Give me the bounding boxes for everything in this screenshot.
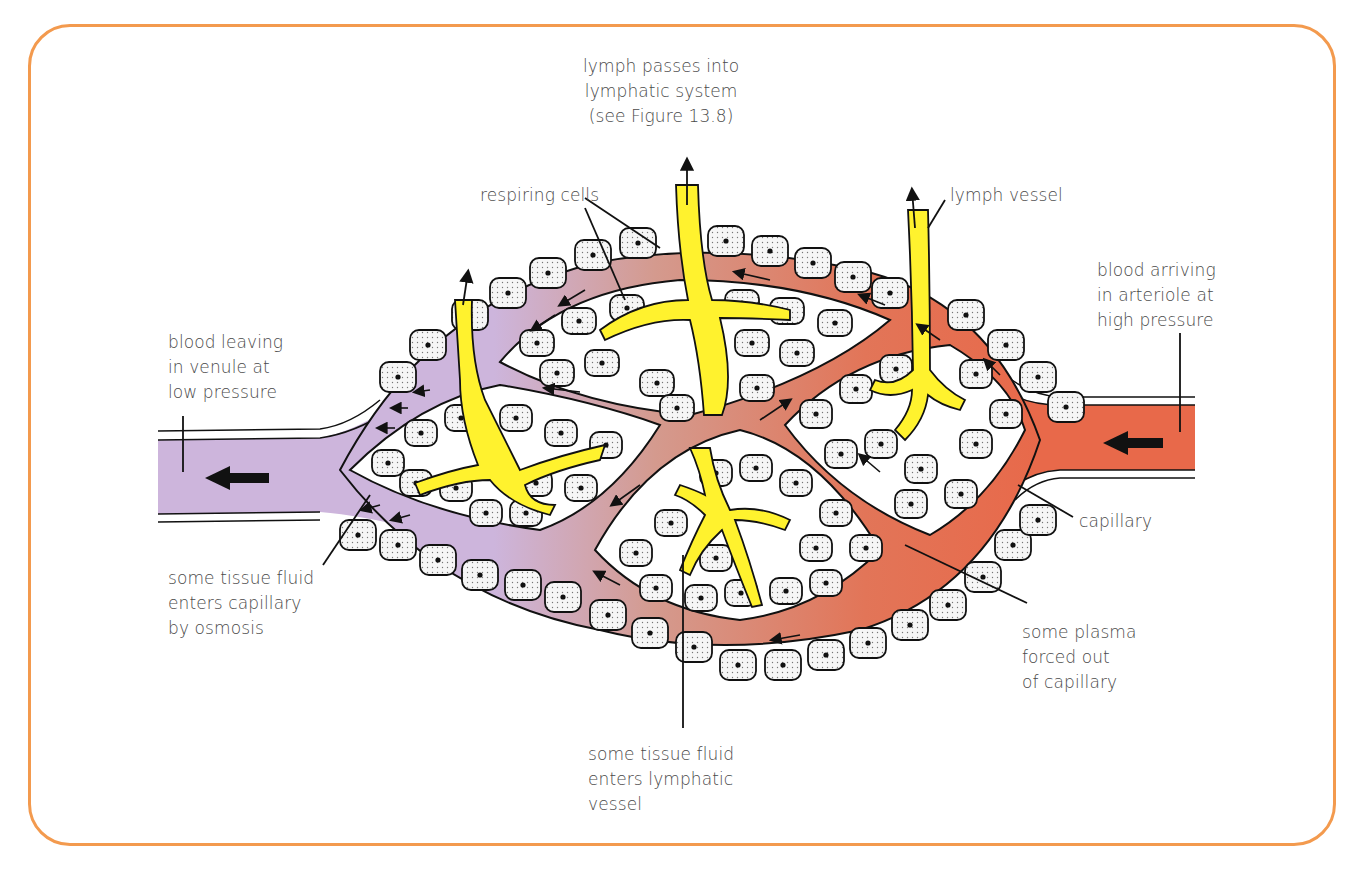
nucleus xyxy=(958,491,963,496)
nucleus xyxy=(578,485,583,490)
nucleus xyxy=(599,360,604,365)
nucleus xyxy=(893,366,898,371)
label-tissue-fluid-osmosis: some tissue fluid enters capillary by os… xyxy=(168,566,314,641)
nucleus xyxy=(1063,404,1068,409)
nucleus xyxy=(477,572,482,577)
nucleus xyxy=(945,602,950,607)
nucleus xyxy=(647,630,652,635)
nucleus xyxy=(853,386,858,391)
nucleus xyxy=(838,451,843,456)
lymph-vessel-leader xyxy=(928,200,945,228)
nucleus xyxy=(723,238,728,243)
nucleus xyxy=(633,550,638,555)
nucleus xyxy=(850,274,855,279)
nucleus xyxy=(554,370,559,375)
nucleus xyxy=(590,252,595,257)
label-capillary: capillary xyxy=(1079,509,1152,534)
nucleus xyxy=(1003,411,1008,416)
nucleus xyxy=(918,466,923,471)
label-blood-leaving: blood leaving in venule at low pressure xyxy=(168,330,283,405)
nucleus xyxy=(418,430,423,435)
nucleus xyxy=(1035,517,1040,522)
nucleus xyxy=(1035,374,1040,379)
nucleus xyxy=(767,248,772,253)
nucleus xyxy=(653,585,658,590)
nucleus xyxy=(780,662,785,667)
nucleus xyxy=(624,305,629,310)
label-lymph-passes: lymph passes into lymphatic system (see … xyxy=(583,54,739,129)
nucleus xyxy=(691,644,696,649)
nucleus xyxy=(754,385,759,390)
nucleus xyxy=(395,542,400,547)
nucleus xyxy=(963,312,968,317)
nucleus xyxy=(605,612,610,617)
nucleus xyxy=(908,501,913,506)
nucleus xyxy=(483,510,488,515)
label-lymph-vessel: lymph vessel xyxy=(950,183,1063,208)
nucleus xyxy=(865,640,870,645)
nucleus xyxy=(505,290,510,295)
nucleus xyxy=(793,480,798,485)
nucleus xyxy=(1003,342,1008,347)
nucleus xyxy=(425,342,430,347)
nucleus xyxy=(823,652,828,657)
nucleus xyxy=(753,465,758,470)
nucleus xyxy=(735,662,740,667)
nucleus xyxy=(635,240,640,245)
nucleus xyxy=(674,405,679,410)
nucleus xyxy=(520,582,525,587)
label-plasma-forced: some plasma forced out of capillary xyxy=(1022,620,1137,695)
nucleus xyxy=(980,574,985,579)
nucleus xyxy=(395,374,400,379)
nucleus xyxy=(698,595,703,600)
nucleus xyxy=(668,520,673,525)
nucleus xyxy=(907,622,912,627)
nucleus xyxy=(513,415,518,420)
nucleus xyxy=(749,340,754,345)
label-respiring-cells: respiring cells xyxy=(480,183,599,208)
nucleus xyxy=(1010,542,1015,547)
nucleus xyxy=(863,545,868,550)
nucleus xyxy=(783,588,788,593)
figure-stage: lymph passes into lymphatic system (see … xyxy=(0,0,1366,871)
nucleus xyxy=(973,371,978,376)
nucleus xyxy=(973,441,978,446)
label-blood-arriving: blood arriving in arteriole at high pres… xyxy=(1097,258,1216,333)
label-tissue-fluid-lymph: some tissue fluid enters lymphatic vesse… xyxy=(588,742,734,817)
nucleus xyxy=(823,580,828,585)
nucleus xyxy=(813,545,818,550)
nucleus xyxy=(794,350,799,355)
nucleus xyxy=(558,430,563,435)
nucleus xyxy=(435,557,440,562)
nucleus xyxy=(878,441,883,446)
nucleus xyxy=(355,532,360,537)
nucleus xyxy=(453,485,458,490)
nucleus xyxy=(887,290,892,295)
nucleus xyxy=(810,260,815,265)
nucleus xyxy=(523,510,528,515)
nucleus xyxy=(713,555,718,560)
nucleus xyxy=(813,411,818,416)
nucleus xyxy=(385,460,390,465)
nucleus xyxy=(534,340,539,345)
nucleus xyxy=(576,318,581,323)
nucleus xyxy=(654,380,659,385)
nucleus xyxy=(738,590,743,595)
nucleus xyxy=(545,270,550,275)
capillary-bed-diagram xyxy=(0,0,1366,871)
nucleus xyxy=(560,594,565,599)
nucleus xyxy=(832,320,837,325)
nucleus xyxy=(833,510,838,515)
